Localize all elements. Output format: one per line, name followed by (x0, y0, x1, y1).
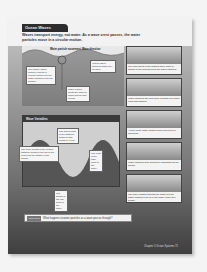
floater-circle-icon (58, 56, 66, 64)
trough-note: The trough is the low point of the wave. (54, 190, 68, 212)
note-depth: Waves affect particles down only so deep… (90, 60, 116, 73)
wave-diagram: Water particle movement Wave direction T… (22, 46, 124, 106)
note-floater: The floater (water particle) moves in ci… (26, 66, 56, 85)
note-wave-depth: Make a wave depth the point at which wav… (66, 86, 90, 102)
wavelength-note: The wavelength is the distance between t… (57, 128, 79, 144)
section-title: Ocean Waves (22, 24, 68, 32)
crest-note: The crest is the high point of the wave. (89, 150, 103, 172)
sequence-panel-1: The movement of the floating toner mark … (126, 46, 182, 75)
sequence-panel-4: Water particles drop and move backward a… (126, 142, 182, 171)
question-text: What happens to water particles as a wav… (43, 217, 112, 220)
page-footer: Chapter 5 Ocean Systems 75 (144, 245, 178, 248)
wave-height-note: The wave height is the vertical distance… (19, 146, 59, 162)
sequence-panel-3: As the crest, water particles have moved… (126, 110, 182, 139)
visual-check-badge: Visual Check (27, 216, 41, 221)
intro-text: Waves transport energy, not water. As a … (22, 33, 152, 42)
sequence-panel-5: The wave passes through the water but th… (126, 174, 182, 203)
particle-movement-label: Water particle movement (50, 48, 81, 51)
visual-check-question: Visual CheckWhat happens to water partic… (24, 214, 132, 222)
sequence-panel-2: Water particles rise and move forward as… (126, 78, 182, 107)
wave-variables-box: Wave Variables The wavelength is the dis… (22, 115, 120, 187)
textbook-page: Ocean Waves Waves transport energy, not … (8, 18, 192, 254)
wave-direction-label: Wave direction (82, 48, 100, 51)
